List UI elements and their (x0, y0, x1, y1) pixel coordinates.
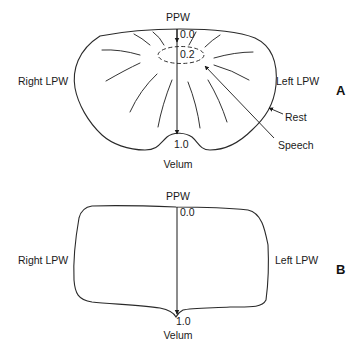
panel-b-scale-1-0: 1.0 (176, 315, 191, 327)
panel-b-port-outline (74, 206, 269, 317)
panel-a-rest-label: Rest (285, 111, 307, 123)
panel-a-scale-1-0: 1.0 (174, 138, 189, 150)
panel-a-ppw-label: PPW (166, 11, 190, 23)
panel-b-left-lpw-label: Left LPW (275, 254, 318, 266)
panel-a-scale-0-0: 0.0 (180, 28, 195, 40)
panel-a-right-lpw-label: Right LPW (18, 75, 68, 87)
panel-a-speech-pointer (205, 66, 274, 138)
panel-a: PPW 0.0 0.2 Right LPW Left LPW A Rest 1.… (18, 11, 346, 170)
panel-a-speech-label: Speech (278, 139, 314, 151)
panel-b-right-lpw-label: Right LPW (18, 254, 68, 266)
panel-a-scale-0-2: 0.2 (180, 48, 195, 60)
panel-a-letter: A (336, 83, 346, 98)
panel-b-scale-0-0: 0.0 (180, 206, 195, 218)
panel-a-left-lpw-label: Left LPW (276, 75, 319, 87)
panel-a-velum-label: Velum (163, 158, 192, 170)
panel-b-letter: B (336, 262, 345, 277)
panel-b-velum-label: Velum (163, 329, 192, 341)
panel-a-rest-pointer (269, 108, 283, 114)
panel-b-ppw-label: PPW (166, 190, 190, 202)
panel-b: PPW 0.0 Right LPW Left LPW B 1.0 Velum (18, 190, 345, 341)
velopharyngeal-diagram: PPW 0.0 0.2 Right LPW Left LPW A Rest 1.… (0, 0, 357, 357)
